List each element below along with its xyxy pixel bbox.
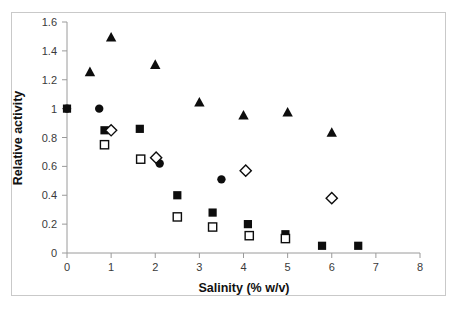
series-open-square [100,141,289,243]
x-tick-label: 8 [417,261,423,273]
data-point-square [281,234,289,242]
scatter-plot: 01234567800.20.40.60.811.21.41.6 Salinit… [0,0,456,310]
y-tick-label: 1.2 [42,74,57,86]
data-point-triangle [150,59,160,69]
x-tick-label: 4 [240,261,246,273]
y-tick-label: 1 [51,103,57,115]
data-point-triangle [194,97,204,107]
tick-labels-group: 01234567800.20.40.60.811.21.41.6 [42,16,423,273]
data-point-square [100,141,108,149]
data-point-square [173,213,181,221]
data-point-square [245,232,253,240]
x-tick-label: 6 [329,261,335,273]
data-point-diamond [240,165,251,176]
data-point-square [173,191,181,199]
x-tick-label: 1 [108,261,114,273]
x-tick-label: 0 [64,261,70,273]
data-point-triangle [327,127,337,137]
data-point-square [244,220,252,228]
x-tick-label: 2 [152,261,158,273]
axes-group [62,22,420,258]
x-axis-title: Salinity (% w/v) [199,281,290,295]
data-point-diamond [326,193,337,204]
data-markers-group [63,32,363,250]
data-point-circle [95,104,103,112]
y-tick-label: 1.4 [42,45,57,57]
y-tick-label: 0.4 [42,189,57,201]
series-filled-circle [63,104,226,183]
data-point-triangle [238,110,248,120]
data-point-square [209,208,217,216]
x-tick-label: 3 [196,261,202,273]
series-open-diamond [106,125,338,204]
data-point-square [63,105,71,113]
y-tick-label: 0.2 [42,218,57,230]
data-point-square [318,242,326,250]
y-tick-label: 0.8 [42,132,57,144]
y-tick-label: 0.6 [42,160,57,172]
data-point-circle [217,175,225,183]
data-point-square [136,125,144,133]
x-tick-label: 5 [285,261,291,273]
data-point-triangle [106,32,116,42]
data-point-square [354,242,362,250]
x-tick-label: 7 [373,261,379,273]
series-filled-triangle [85,32,337,137]
y-axis-title: Relative activity [11,91,25,186]
y-tick-label: 1.6 [42,16,57,28]
y-tick-label: 0 [51,247,57,259]
data-point-square [137,155,145,163]
figure-container: 01234567800.20.40.60.811.21.41.6 Salinit… [0,0,456,310]
data-point-triangle [85,67,95,77]
data-point-square [209,223,217,231]
data-point-triangle [282,107,292,117]
